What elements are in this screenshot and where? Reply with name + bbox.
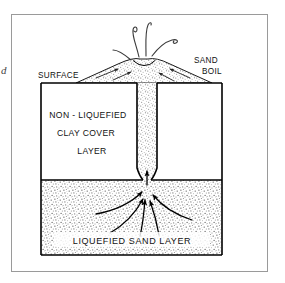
label-surface: SURFACE — [38, 71, 79, 80]
label-clay-line-1: NON - LIQUEFIED — [49, 110, 126, 120]
edge-mark-glyph: d — [1, 64, 7, 76]
label-boil: BOIL — [202, 67, 222, 76]
figure-root: d — [0, 0, 285, 283]
label-clay-line-3: LAYER — [77, 146, 106, 156]
clay-cover-block-right — [157, 83, 222, 180]
label-sand: SAND — [194, 56, 218, 65]
sand-boil-diagram: d — [0, 0, 285, 283]
label-liquefied-sand-layer: LIQUEFIED SAND LAYER — [73, 236, 191, 246]
label-clay-line-2: CLAY COVER — [57, 128, 115, 138]
sand-vent-channel — [137, 83, 157, 180]
